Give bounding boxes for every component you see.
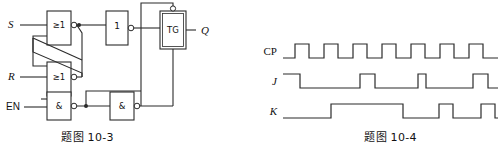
waveform-label-j: J xyxy=(272,75,278,87)
nor-gate-top-output-bubble xyxy=(71,22,77,28)
nand-gate-left-symbol: & xyxy=(56,101,63,111)
pin-label-q: Q xyxy=(201,24,209,36)
wire-cross-left-lower xyxy=(33,38,47,66)
figure-caption-left: 题图 10-3 xyxy=(0,128,213,144)
pin-label-en: EN xyxy=(6,101,20,112)
inverter-gate-symbol: 1 xyxy=(114,21,120,31)
figure-caption-right: 题图 10-4 xyxy=(265,128,502,144)
transmission-gate-control-bubble xyxy=(170,6,175,11)
nand-gate-left-output-bubble xyxy=(71,103,77,109)
pin-label-s: S xyxy=(8,18,14,30)
waveform-label-k: K xyxy=(269,105,278,117)
inverter-output-bubble xyxy=(128,25,134,31)
timing-diagram-panel: CP J K 题图 10-4 xyxy=(251,0,502,149)
nor-gate-bottom-symbol: ≥1 xyxy=(53,72,66,82)
waveform-label-cp: CP xyxy=(264,45,277,57)
circuit-diagram-svg: S R EN Q ≥1 ≥1 xyxy=(0,0,251,126)
wire-nor-top-out-down xyxy=(77,25,82,60)
waveform-trace-j xyxy=(283,74,498,88)
nand-gate-right-symbol: & xyxy=(119,101,126,111)
nor-gate-top-symbol: ≥1 xyxy=(53,20,66,30)
timing-diagram-svg: CP J K xyxy=(251,0,502,126)
waveform-trace-k xyxy=(283,104,498,118)
waveform-trace-cp xyxy=(283,44,498,58)
nand-gate-right-output-bubble xyxy=(134,103,140,109)
junction-dot-nor-top xyxy=(77,23,81,27)
circuit-diagram-panel: S R EN Q ≥1 ≥1 xyxy=(0,0,251,149)
figure-pair-container: S R EN Q ≥1 ≥1 xyxy=(0,0,502,149)
wire-cross-left-upper xyxy=(33,36,47,38)
pin-label-r: R xyxy=(7,70,15,82)
nor-gate-bottom-output-bubble xyxy=(71,74,77,80)
transmission-gate-symbol: TG xyxy=(166,25,179,35)
